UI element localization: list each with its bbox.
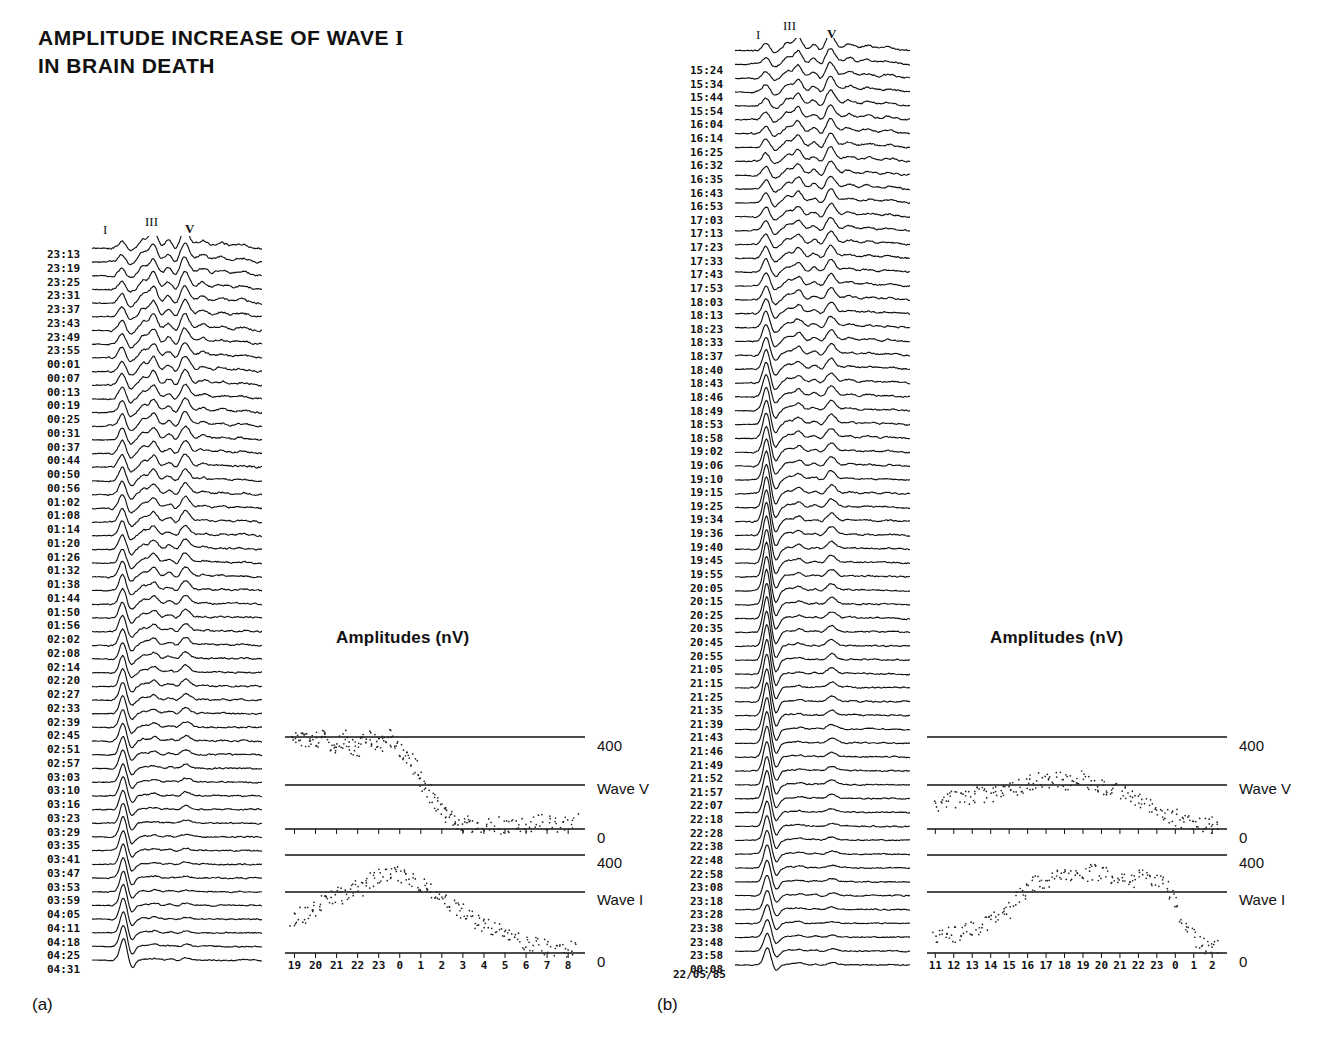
scatter-point <box>1199 936 1201 938</box>
scatter-point <box>386 880 388 882</box>
scatter-point <box>477 827 479 829</box>
scatter-point <box>370 732 372 734</box>
time-label: 21:25 <box>690 691 723 704</box>
scatter-point <box>1129 881 1131 883</box>
time-label: 23:31 <box>47 289 80 302</box>
scatter-point <box>1043 887 1045 889</box>
scatter-point <box>426 882 428 884</box>
scatter-point <box>479 917 481 919</box>
scatter-point <box>498 816 500 818</box>
scatter-point <box>1156 809 1158 811</box>
scatter-point <box>380 880 382 882</box>
time-label-column-a: 23:1323:1923:2523:3123:3723:4323:4923:55… <box>47 248 93 978</box>
scatter-point <box>1160 875 1162 877</box>
waterfall-trace <box>735 299 910 318</box>
scatter-point <box>461 908 463 910</box>
scatter-point <box>525 831 527 833</box>
scatter-point <box>508 821 510 823</box>
scatter-point <box>335 752 337 754</box>
scatter-point <box>397 866 399 868</box>
scatter-point <box>1168 822 1170 824</box>
amp-label-400-lower-a: 400 <box>597 854 622 871</box>
time-label: 18:49 <box>690 405 723 418</box>
amplitude-scatter: 11121314151617181920212223012 <box>927 725 1227 977</box>
scatter-point <box>403 749 405 751</box>
scatter-point <box>989 916 991 918</box>
scatter-point <box>348 746 350 748</box>
scatter-point <box>1116 783 1118 785</box>
scatter-point <box>492 934 494 936</box>
time-label: 18:43 <box>690 377 723 390</box>
amplitude-title-b: Amplitudes (nV) <box>990 628 1123 648</box>
scatter-point <box>302 921 304 923</box>
scatter-point <box>1194 936 1196 938</box>
scatter-point <box>1191 828 1193 830</box>
scatter-point <box>1087 880 1089 882</box>
time-label: 17:43 <box>690 268 723 281</box>
scatter-point <box>1162 883 1164 885</box>
time-label: 18:03 <box>690 296 723 309</box>
scatter-point <box>424 884 426 886</box>
scatter-point <box>975 929 977 931</box>
time-label: 00:56 <box>47 482 80 495</box>
scatter-point <box>471 910 473 912</box>
scatter-point <box>342 733 344 735</box>
scatter-point <box>533 816 535 818</box>
time-label: 18:37 <box>690 350 723 363</box>
scatter-point <box>517 939 519 941</box>
scatter-point <box>978 934 980 936</box>
scatter-point <box>1124 880 1126 882</box>
axis-tick-label: 22 <box>351 959 364 972</box>
scatter-point <box>1111 789 1113 791</box>
scatter-point <box>504 931 506 933</box>
waterfall-trace <box>735 259 910 277</box>
scatter-point <box>295 741 297 743</box>
scatter-point <box>1044 776 1046 778</box>
time-label: 03:59 <box>47 894 80 907</box>
time-label: 18:40 <box>690 364 723 377</box>
scatter-point <box>348 897 350 899</box>
time-label: 16:14 <box>690 132 723 145</box>
scatter-point <box>1034 875 1036 877</box>
scatter-point <box>365 742 367 744</box>
scatter-point <box>937 810 939 812</box>
scatter-point <box>1035 787 1037 789</box>
scatter-point <box>530 831 532 833</box>
axis-tick-label: 1 <box>1190 959 1197 972</box>
scatter-point <box>1085 868 1087 870</box>
time-label: 04:25 <box>47 949 80 962</box>
scatter-point <box>992 801 994 803</box>
scatter-point <box>385 742 387 744</box>
scatter-point <box>1217 828 1219 830</box>
scatter-point <box>536 940 538 942</box>
scatter-point <box>1150 799 1152 801</box>
scatter-point <box>954 791 956 793</box>
scatter-point <box>331 745 333 747</box>
scatter-point <box>496 931 498 933</box>
scatter-point <box>352 754 354 756</box>
scatter-point <box>500 833 502 835</box>
time-label: 20:35 <box>690 622 723 635</box>
scatter-point <box>571 950 573 952</box>
scatter-point <box>1101 779 1103 781</box>
scatter-point <box>494 922 496 924</box>
scatter-point <box>966 931 968 933</box>
amplitude-scatter: 1920212223012345678 <box>285 725 585 977</box>
scatter-point <box>1019 786 1021 788</box>
time-label: 23:49 <box>47 331 80 344</box>
scatter-point <box>935 802 937 804</box>
scatter-point <box>522 947 524 949</box>
scatter-point <box>1025 898 1027 900</box>
scatter-point <box>319 906 321 908</box>
time-label: 03:23 <box>47 812 80 825</box>
scatter-point <box>1090 780 1092 782</box>
scatter-point <box>538 814 540 816</box>
scatter-point <box>478 915 480 917</box>
time-label: 03:53 <box>47 881 80 894</box>
scatter-point <box>377 882 379 884</box>
scatter-point <box>1087 787 1089 789</box>
scatter-point <box>1097 790 1099 792</box>
scatter-point <box>1061 872 1063 874</box>
scatter-point <box>406 762 408 764</box>
scatter-point <box>1182 818 1184 820</box>
